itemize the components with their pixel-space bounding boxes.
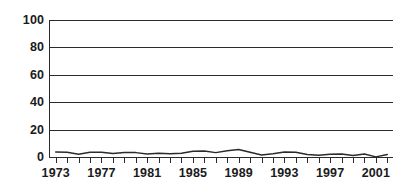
x-axis-tick [101, 157, 102, 163]
x-axis-tick [181, 157, 182, 163]
x-axis-tick [204, 157, 205, 163]
x-axis-tick [353, 157, 354, 163]
y-axis-tick-label: 0 [0, 151, 44, 164]
x-axis-tick-labels: 19731977198119851989199319972001 [50, 166, 393, 186]
x-axis-tick-label: 1997 [316, 166, 344, 180]
x-axis-tick [67, 157, 68, 163]
x-axis-tick-label: 1977 [87, 166, 115, 180]
y-axis-tick-label: 40 [0, 96, 44, 109]
x-axis-tick [250, 157, 251, 163]
x-axis-tick-label: 1989 [225, 166, 253, 180]
x-axis-tick [147, 157, 148, 163]
y-axis-tick-label: 60 [0, 69, 44, 82]
x-axis-tick [330, 157, 331, 163]
x-axis-tick [307, 157, 308, 163]
x-axis-tick [56, 157, 57, 163]
x-axis-tick [364, 157, 365, 163]
x-axis-tick [227, 157, 228, 163]
x-axis-tick-label: 1993 [270, 166, 298, 180]
x-axis-tick [90, 157, 91, 163]
x-axis-tick [296, 157, 297, 163]
y-axis-tick-label: 80 [0, 41, 44, 54]
x-axis-tick [79, 157, 80, 163]
data-series-group [50, 20, 393, 157]
y-axis-tick-label: 20 [0, 123, 44, 136]
y-axis-tick-label: 100 [0, 14, 44, 27]
x-axis-tick [262, 157, 263, 163]
x-axis-tick [113, 157, 114, 163]
x-axis-tick-label: 1981 [133, 166, 161, 180]
line-chart: 020406080100 197319771981198519891993199… [0, 0, 410, 196]
x-axis-tick-label: 1973 [42, 166, 70, 180]
x-axis-tick [284, 157, 285, 163]
x-axis-tick [273, 157, 274, 163]
x-axis-tick-label: 1985 [179, 166, 207, 180]
x-axis-tick [136, 157, 137, 163]
x-axis-tick-label: 2001 [362, 166, 390, 180]
y-axis-tick-labels: 020406080100 [0, 0, 44, 196]
x-axis-tick [124, 157, 125, 163]
series-1-line [56, 150, 388, 157]
x-axis-tick [193, 157, 194, 163]
plot-area [50, 20, 393, 157]
x-axis-tick [170, 157, 171, 163]
x-axis-tick [376, 157, 377, 163]
x-axis-tick [216, 157, 217, 163]
x-axis-ticks [50, 157, 393, 164]
x-axis-tick [159, 157, 160, 163]
x-axis-tick [239, 157, 240, 163]
x-axis-tick [319, 157, 320, 163]
x-axis-tick [342, 157, 343, 163]
x-axis-tick [387, 157, 388, 163]
